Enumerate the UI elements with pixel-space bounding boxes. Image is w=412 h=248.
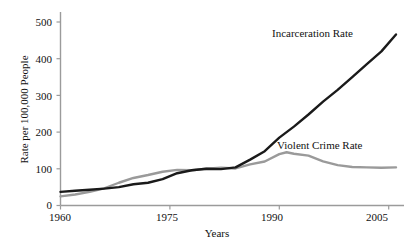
y-tick-label-100: 100 bbox=[22, 164, 52, 175]
axis-lines bbox=[61, 12, 405, 206]
x-tick-label-2005: 2005 bbox=[355, 212, 399, 223]
chart-figure: Rate per 100,000 People Years 500 400 30… bbox=[0, 0, 412, 248]
violent-crime-rate-annotation: Violent Crime Rate bbox=[277, 140, 363, 151]
violent-crime-rate-line bbox=[61, 152, 397, 196]
x-axis-title: Years bbox=[182, 228, 252, 239]
y-tick-label-400: 400 bbox=[22, 54, 52, 65]
x-tick-label-1975: 1975 bbox=[145, 212, 189, 223]
y-tick-label-200: 200 bbox=[22, 127, 52, 138]
x-tick-label-1960: 1960 bbox=[38, 212, 82, 223]
y-tick-label-0: 0 bbox=[22, 200, 52, 211]
x-tick-label-1990: 1990 bbox=[250, 212, 294, 223]
incarceration-rate-annotation: Incarceration Rate bbox=[272, 28, 353, 39]
y-tick-label-500: 500 bbox=[22, 17, 52, 28]
incarceration-rate-line bbox=[61, 34, 397, 191]
y-tick-label-300: 300 bbox=[22, 91, 52, 102]
